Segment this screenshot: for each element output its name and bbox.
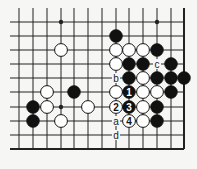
white-stone-4: 4 bbox=[123, 115, 136, 128]
move-number: 3 bbox=[126, 102, 132, 113]
black-stone bbox=[151, 115, 164, 128]
black-stone bbox=[137, 58, 150, 71]
point-label-a: a bbox=[113, 116, 119, 127]
white-stone bbox=[137, 44, 150, 57]
star-point bbox=[155, 20, 159, 24]
white-stone bbox=[41, 86, 54, 99]
move-number: 1 bbox=[126, 87, 132, 98]
white-stone bbox=[137, 101, 150, 114]
black-stone bbox=[165, 72, 178, 85]
black-stone bbox=[110, 30, 123, 43]
black-stone bbox=[165, 58, 178, 71]
go-board-diagram: cbad 1234 bbox=[0, 0, 197, 169]
white-stone-2: 2 bbox=[110, 101, 123, 114]
white-stone bbox=[137, 115, 150, 128]
point-labels: cbad bbox=[112, 59, 161, 141]
white-stone bbox=[137, 72, 150, 85]
white-stone bbox=[110, 44, 123, 57]
black-stone bbox=[123, 72, 136, 85]
black-stone bbox=[123, 58, 136, 71]
white-stone bbox=[82, 101, 95, 114]
black-stone bbox=[27, 115, 40, 128]
star-point bbox=[59, 20, 63, 24]
move-number: 4 bbox=[126, 116, 132, 127]
black-stone-3: 3 bbox=[123, 101, 136, 114]
point-label-c: c bbox=[155, 59, 160, 70]
white-stone bbox=[110, 86, 123, 99]
point-label-d: d bbox=[113, 130, 119, 141]
white-stone bbox=[55, 115, 68, 128]
black-stone bbox=[165, 86, 178, 99]
black-stone bbox=[27, 101, 40, 114]
black-stone-1: 1 bbox=[123, 86, 136, 99]
white-stone bbox=[55, 44, 68, 57]
black-stone bbox=[178, 72, 191, 85]
black-stone bbox=[68, 86, 81, 99]
white-stone bbox=[137, 86, 150, 99]
point-label-b: b bbox=[113, 73, 119, 84]
black-stone bbox=[151, 44, 164, 57]
white-stone bbox=[151, 86, 164, 99]
black-stone bbox=[151, 72, 164, 85]
white-stone bbox=[123, 44, 136, 57]
move-number: 2 bbox=[113, 102, 119, 113]
white-stone bbox=[41, 101, 54, 114]
white-stone bbox=[110, 58, 123, 71]
black-stone bbox=[151, 101, 164, 114]
star-point bbox=[59, 105, 63, 109]
